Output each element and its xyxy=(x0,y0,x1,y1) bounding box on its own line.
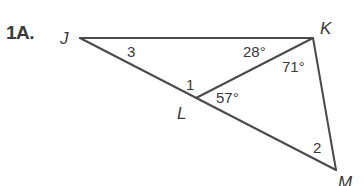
vertex-label-k: K xyxy=(320,19,332,38)
vertex-label-l: L xyxy=(177,104,186,123)
angle-label-71: 71° xyxy=(282,58,305,75)
angle-label-28: 28° xyxy=(243,43,266,60)
angle-label-57: 57° xyxy=(216,89,239,106)
triangle-figure: J K L M 3 28° 71° 1 57° 2 xyxy=(0,0,364,186)
angle-label-2: 2 xyxy=(313,139,321,156)
vertex-label-m: M xyxy=(338,173,353,186)
angle-label-3: 3 xyxy=(127,43,135,60)
vertex-label-j: J xyxy=(59,29,69,48)
angle-label-1: 1 xyxy=(186,76,194,93)
